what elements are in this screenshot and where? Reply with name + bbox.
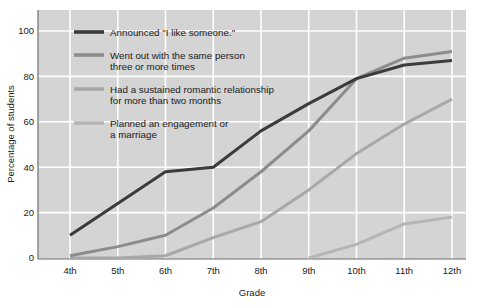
- x-axis-title: Grade: [239, 287, 265, 298]
- y-tick-label: 100: [18, 25, 34, 36]
- x-tick-label: 6th: [159, 265, 172, 276]
- x-tick-label: 12th: [443, 265, 462, 276]
- legend-label-4: Planned an engagement or: [110, 118, 229, 129]
- chart-container: 100806040200 4th5th6th7th8th9th10th11th1…: [0, 0, 485, 308]
- y-tick-label: 20: [23, 207, 34, 218]
- legend-label-3-line2: for more than two months: [110, 95, 221, 106]
- y-tick-label: 60: [23, 116, 34, 127]
- legend-label-2: Went out with the same person: [110, 50, 245, 61]
- legend-label-2-line2: three or more times: [110, 61, 195, 72]
- x-tick-label: 9th: [302, 265, 315, 276]
- y-tick-label: 40: [23, 162, 34, 173]
- x-tick-label: 8th: [254, 265, 267, 276]
- plot-area-background: [38, 10, 466, 259]
- x-tick-label: 7th: [207, 265, 220, 276]
- x-tick-label: 5th: [111, 265, 124, 276]
- x-tick-label: 11th: [395, 265, 413, 276]
- y-tick-label: 80: [23, 71, 34, 82]
- x-tick-label: 10th: [347, 265, 366, 276]
- y-axis-title: Percentage of students: [5, 85, 16, 183]
- x-axis-tick-labels: 4th5th6th7th8th9th10th11th12th: [63, 265, 461, 276]
- line-chart: 100806040200 4th5th6th7th8th9th10th11th1…: [0, 0, 485, 308]
- x-tick-label: 4th: [63, 265, 76, 276]
- legend-label-3: Had a sustained romantic relationship: [110, 84, 274, 95]
- legend-label-4-line2: a marriage: [110, 129, 157, 140]
- y-axis-tick-labels: 100806040200: [18, 25, 34, 263]
- y-tick-label: 0: [29, 252, 34, 263]
- legend-label-1: Announced "I like someone.": [110, 27, 236, 38]
